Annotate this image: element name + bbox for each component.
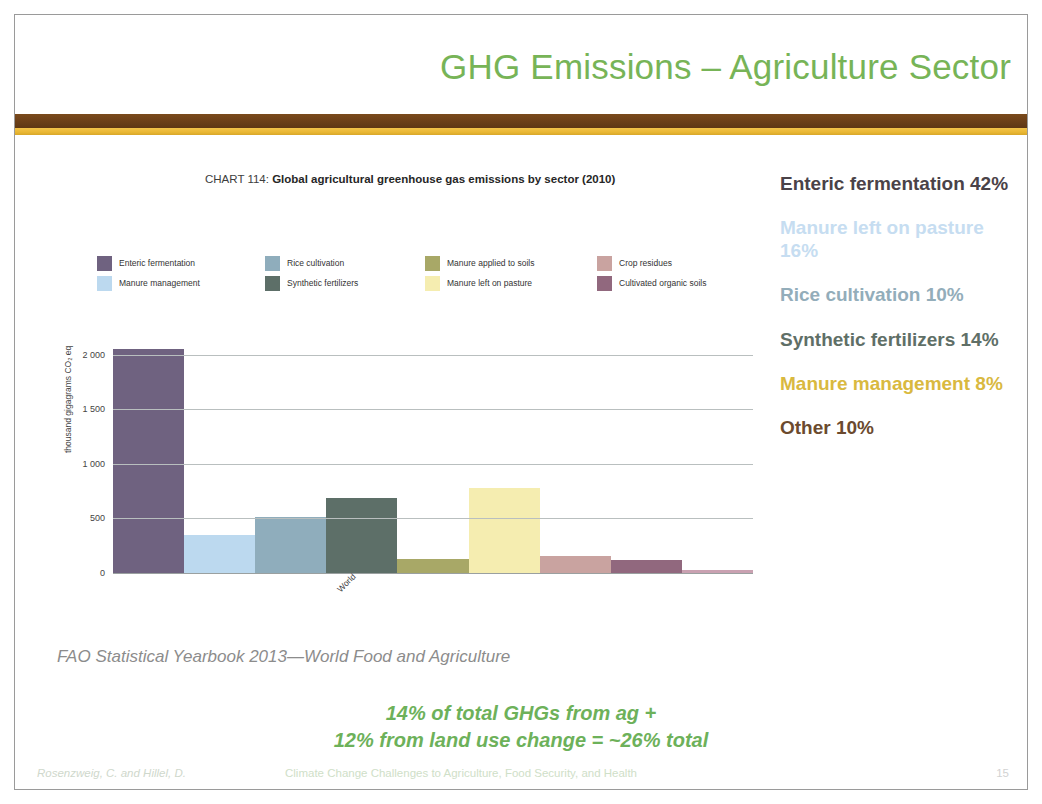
legend-swatch-icon: [265, 276, 280, 291]
legend-label: Synthetic fertilizers: [287, 278, 358, 288]
summary-line-2: 12% from land use change = ~26% total: [15, 727, 1027, 754]
bar: [184, 535, 255, 573]
callout-list: Enteric fermentation 42%Manure left on p…: [780, 173, 1025, 462]
x-axis-label: World: [335, 571, 358, 594]
legend-swatch-icon: [425, 256, 440, 271]
bar: [611, 560, 682, 573]
legend-item: Cultivated organic soils: [597, 276, 747, 291]
chart-title-text: Global agricultural greenhouse gas emiss…: [272, 173, 615, 185]
legend-swatch-icon: [425, 276, 440, 291]
summary-statement: 14% of total GHGs from ag + 12% from lan…: [15, 700, 1027, 754]
y-axis-tick: 0: [100, 568, 105, 578]
chart-panel: CHART 114: Global agricultural greenhous…: [35, 155, 770, 655]
bar: [540, 556, 611, 573]
callout-item: Manure left on pasture 16%: [780, 217, 1025, 262]
slide-header: GHG Emissions – Agriculture Sector: [15, 15, 1027, 113]
legend-label: Enteric fermentation: [119, 258, 195, 268]
legend-label: Crop residues: [619, 258, 672, 268]
legend-item: Crop residues: [597, 256, 747, 271]
y-axis-tick: 2 000: [82, 350, 105, 360]
chart-title-prefix: CHART 114:: [205, 173, 272, 185]
gridline: [113, 573, 753, 574]
y-axis-tick: 500: [90, 513, 105, 523]
plot-area: 05001 0001 5002 000: [113, 333, 753, 573]
header-divider-brown: [15, 114, 1027, 128]
legend-label: Manure management: [119, 278, 200, 288]
y-axis-tick: 1 500: [82, 404, 105, 414]
bar: [113, 349, 184, 573]
legend-row: Manure managementSynthetic fertilizersMa…: [97, 273, 757, 293]
gridline: [113, 355, 753, 356]
legend-label: Rice cultivation: [287, 258, 344, 268]
callout-item: Other 10%: [780, 417, 1025, 439]
bar: [255, 517, 326, 573]
slide: GHG Emissions – Agriculture Sector CHART…: [14, 14, 1028, 790]
bar: [397, 559, 468, 573]
footer-page-number: 15: [996, 767, 1009, 779]
legend-label: Manure left on pasture: [447, 278, 532, 288]
footer-course: Climate Change Challenges to Agriculture…: [285, 767, 637, 779]
gridline: [113, 409, 753, 410]
bar-series: [113, 333, 753, 573]
slide-footer: Rosenzweig, C. and Hillel, D. Climate Ch…: [15, 767, 1027, 791]
callout-item: Rice cultivation 10%: [780, 284, 1025, 306]
legend-item: Enteric fermentation: [97, 256, 265, 271]
header-divider-gold: [15, 128, 1027, 135]
bar: [469, 488, 540, 573]
legend-row: Enteric fermentationRice cultivationManu…: [97, 253, 757, 273]
page-title: GHG Emissions – Agriculture Sector: [440, 47, 1011, 87]
legend-label: Cultivated organic soils: [619, 278, 706, 288]
bar: [326, 498, 397, 573]
y-axis-label: thousand gigagrams CO₂ eq: [63, 346, 73, 453]
legend-swatch-icon: [97, 256, 112, 271]
legend-item: Manure left on pasture: [425, 276, 597, 291]
chart-legend: Enteric fermentationRice cultivationManu…: [97, 253, 757, 293]
legend-swatch-icon: [597, 256, 612, 271]
legend-swatch-icon: [597, 276, 612, 291]
legend-item: Manure applied to soils: [425, 256, 597, 271]
gridline: [113, 518, 753, 519]
y-axis-tick: 1 000: [82, 459, 105, 469]
chart-source: FAO Statistical Yearbook 2013—World Food…: [57, 647, 510, 667]
callout-item: Enteric fermentation 42%: [780, 173, 1025, 195]
callout-item: Manure management 8%: [780, 373, 1025, 395]
legend-item: Rice cultivation: [265, 256, 425, 271]
legend-swatch-icon: [265, 256, 280, 271]
legend-label: Manure applied to soils: [447, 258, 534, 268]
legend-item: Manure management: [97, 276, 265, 291]
legend-item: Synthetic fertilizers: [265, 276, 425, 291]
gridline: [113, 464, 753, 465]
legend-swatch-icon: [97, 276, 112, 291]
summary-line-1: 14% of total GHGs from ag +: [15, 700, 1027, 727]
chart-title: CHART 114: Global agricultural greenhous…: [205, 173, 615, 185]
footer-authors: Rosenzweig, C. and Hillel, D.: [37, 767, 186, 779]
callout-item: Synthetic fertilizers 14%: [780, 329, 1025, 351]
